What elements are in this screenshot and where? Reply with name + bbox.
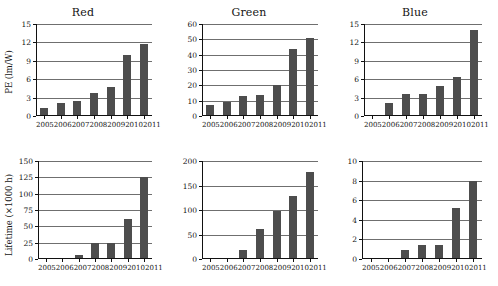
bar-series [202, 161, 318, 259]
y-tick-label: 200 [183, 157, 197, 166]
chart-panel-top-center: Green01020304050602005200620072008200920… [166, 0, 332, 143]
x-tick-label: 2010 [453, 121, 471, 129]
x-tick-label: 2011 [309, 264, 327, 272]
x-tick-label: 2008 [255, 121, 273, 129]
x-tick-mark [423, 116, 424, 119]
bar-slot [219, 161, 236, 259]
plot-area: 0255075100125150 [38, 161, 152, 259]
x-tick-label: 2008 [91, 264, 109, 272]
bar-slot [119, 161, 135, 259]
y-tick-label: 6 [352, 196, 357, 205]
x-tick-mark [457, 116, 458, 119]
x-tick-label: 2005 [364, 121, 382, 129]
bar [289, 49, 297, 116]
plot-inner: 03691215 [36, 24, 152, 116]
x-tick-label: 2008 [415, 264, 433, 272]
bar [140, 44, 148, 116]
chart-title: Red [0, 6, 166, 19]
x-tick-label: 2009 [273, 121, 291, 129]
x-tick-mark [293, 116, 294, 119]
bar-slot [71, 161, 87, 259]
x-tick-label: 2007 [238, 264, 256, 272]
bar-slot [219, 24, 236, 116]
x-tick-mark [94, 116, 95, 119]
x-tick-labels: 2005200620072008200920102011 [202, 264, 318, 272]
x-tick-mark [144, 116, 145, 119]
x-tick-labels: 2005200620072008200920102011 [362, 264, 482, 272]
y-tick-mark [199, 259, 202, 260]
x-tick-label: 2009 [107, 121, 125, 129]
y-tick-label: 60 [187, 20, 197, 29]
bar-series [36, 24, 152, 116]
bar [419, 94, 427, 116]
bar-slot [69, 24, 86, 116]
y-tick-label: 100 [19, 189, 33, 198]
y-tick-label: 15 [349, 20, 359, 29]
y-tick-label: 0 [354, 112, 359, 121]
x-tick-mark [474, 116, 475, 119]
x-tick-mark [456, 259, 457, 262]
x-tick-label: 2006 [220, 264, 238, 272]
bar [90, 93, 98, 116]
y-tick-label: 25 [23, 238, 33, 247]
x-tick-mark [144, 259, 145, 262]
bar-slot [103, 161, 119, 259]
x-tick-label: 2006 [380, 264, 398, 272]
x-tick-label: 2010 [127, 264, 145, 272]
y-tick-mark [359, 259, 362, 260]
x-tick-mark [62, 259, 63, 262]
x-tick-mark [111, 259, 112, 262]
bar [469, 181, 477, 259]
x-tick-mark [293, 259, 294, 262]
plot-area: 03691215 [36, 24, 152, 116]
chart-panel-bottom-left: Lifetime (×1000 h)0255075100125150200520… [0, 143, 166, 286]
bar-slot [54, 161, 70, 259]
bar-slot [285, 161, 302, 259]
x-tick-label: 2009 [433, 264, 451, 272]
bar [306, 38, 314, 116]
bar-slot [202, 24, 219, 116]
x-tick-label: 2005 [362, 264, 380, 272]
x-tick-label: 2008 [255, 264, 273, 272]
bar [470, 30, 478, 116]
bar-slot [202, 161, 219, 259]
bar-series [202, 24, 318, 116]
y-tick-label: 0 [192, 112, 197, 121]
y-axis-label: Lifetime (×1000 h) [2, 143, 16, 286]
bar-slot [102, 24, 119, 116]
bar-slot [285, 24, 302, 116]
y-axis-line [202, 24, 203, 116]
x-tick-mark [372, 116, 373, 119]
x-tick-labels: 2005200620072008200920102011 [202, 121, 318, 129]
bar-slot [252, 24, 269, 116]
x-tick-label: 2009 [435, 121, 453, 129]
x-tick-label: 2006 [56, 264, 74, 272]
bar-slot [301, 161, 318, 259]
x-tick-label: 2010 [125, 121, 143, 129]
bar [123, 55, 131, 116]
x-tick-label: 2010 [291, 264, 309, 272]
bar-slot [465, 24, 482, 116]
x-tick-mark [260, 259, 261, 262]
y-tick-label: 150 [183, 181, 197, 190]
y-tick-label: 75 [23, 206, 33, 215]
chart-panel-bottom-center: 0501001502002005200620072008200920102011 [166, 143, 332, 286]
y-tick-label: 125 [19, 173, 33, 182]
bar-slot [301, 24, 318, 116]
bar [385, 103, 393, 116]
plot-area: 0246810 [362, 161, 482, 259]
x-tick-label: 2010 [451, 264, 469, 272]
x-tick-mark [127, 116, 128, 119]
bar-slot [135, 24, 152, 116]
x-tick-mark [310, 116, 311, 119]
y-axis-label: PE (lm/W) [2, 0, 16, 143]
bar-slot [398, 24, 415, 116]
x-tick-labels: 2005200620072008200920102011 [36, 121, 152, 129]
bar-slot [413, 161, 430, 259]
y-tick-label: 3 [26, 93, 31, 102]
y-tick-label: 0 [28, 255, 33, 264]
x-tick-mark [95, 259, 96, 262]
x-tick-label: 2011 [145, 264, 163, 272]
x-tick-label: 2006 [220, 121, 238, 129]
x-tick-label: 2008 [417, 121, 435, 129]
